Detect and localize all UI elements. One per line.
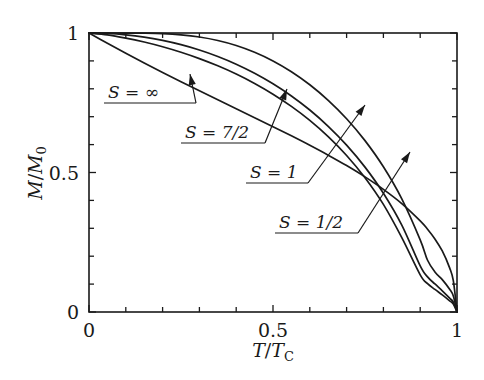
magnetization-plot: 00.5100.51 S = ∞S = 7/2S = 1S = 1/2 T/TC… [0, 0, 484, 380]
figure-container: 00.5100.51 S = ∞S = 7/2S = 1S = 1/2 T/TC… [0, 0, 484, 380]
annotation-label: S = 7/2 [185, 122, 249, 142]
y-axis-title-denominator: M [24, 154, 46, 175]
x-tick-label: 0.5 [258, 319, 288, 341]
x-tick-label: 0 [83, 319, 95, 341]
y-tick-label: 0 [67, 301, 79, 323]
plot-background [0, 0, 484, 380]
annotation-label: S = 1 [250, 162, 298, 182]
y-axis-title-numerator: M [24, 180, 46, 201]
y-tick-label: 0.5 [49, 162, 79, 184]
y-tick-label: 1 [67, 22, 79, 44]
x-tick-label: 1 [451, 319, 463, 341]
annotation-label: S = ∞ [108, 82, 159, 102]
y-axis-title-subscript: 0 [34, 146, 49, 154]
x-axis-title-subscript: C [284, 349, 294, 364]
annotation-label: S = 1/2 [279, 212, 343, 232]
